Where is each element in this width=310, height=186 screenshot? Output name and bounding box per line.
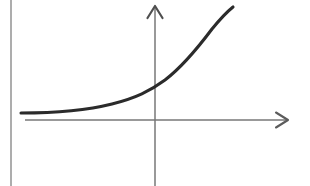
y-axis: [148, 6, 163, 186]
x-axis: [25, 113, 288, 128]
exponential-graph-figure: [0, 0, 310, 186]
exponential-curve: [21, 7, 233, 113]
figure-root: Hand-drawn style line graph of an increa…: [0, 0, 310, 186]
